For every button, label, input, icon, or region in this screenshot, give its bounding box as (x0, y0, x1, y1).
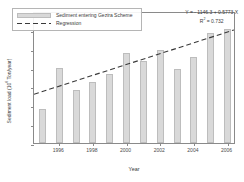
bar (106, 74, 113, 143)
chart-legend: Sediment entering Gezira Scheme Regressi… (12, 8, 142, 31)
regression-line (34, 13, 234, 143)
y-axis-tick-mark (31, 107, 34, 108)
bar (224, 29, 231, 143)
x-axis-tick-label: 1996 (44, 148, 72, 153)
y-axis-tick-mark (31, 70, 34, 71)
x-axis-label: Year (33, 166, 235, 172)
legend-item-regression: Regression (17, 20, 137, 27)
bar (123, 53, 130, 143)
legend-item-label: Regression (56, 21, 81, 26)
y-axis-tick-mark (31, 88, 34, 89)
plot-frame: 02468101214 (33, 12, 235, 144)
r-squared-text: R2 = 0.732 (185, 16, 238, 25)
legend-item-sediment: Sediment entering Gezira Scheme (17, 12, 137, 19)
bar (174, 69, 181, 143)
legend-bar-swatch-icon (17, 13, 51, 18)
r-squared-value: = 0.732 (205, 18, 223, 24)
bar (56, 68, 63, 143)
x-axis-tick-label: 2006 (213, 148, 241, 153)
bar (207, 33, 214, 143)
y-axis-tick-mark (31, 126, 34, 127)
x-axis-tick-mark (59, 143, 60, 146)
bar (190, 57, 197, 143)
x-axis-tick-mark (127, 143, 128, 146)
legend-item-label: Sediment entering Gezira Scheme (56, 13, 132, 18)
x-axis-tick-mark (93, 143, 94, 146)
x-axis-tick-label: 2002 (145, 148, 173, 153)
regression-equation-annotation: Y = - 1146.3 + 0.5773 X R2 = 0.732 (185, 9, 238, 25)
y-axis-label: Sediment load (106 Ton/year) (4, 36, 12, 146)
x-axis-tick-label: 1998 (78, 148, 106, 153)
bar (157, 50, 164, 143)
y-axis-tick-mark (31, 51, 34, 52)
x-axis-tick-mark (160, 143, 161, 146)
bar (89, 82, 96, 143)
sediment-load-bar-chart: Sediment load (106 Ton/year) 02468101214… (0, 0, 244, 182)
bar (73, 90, 80, 143)
y-axis-label-prefix: Sediment load (10 (6, 83, 12, 124)
y-axis-label-suffix: Ton/year) (6, 59, 12, 81)
plot-area (34, 13, 234, 143)
y-axis-tick-mark (31, 145, 34, 146)
regression-equation-text: Y = - 1146.3 + 0.5773 X (185, 9, 238, 16)
x-axis-tick-label: 2004 (179, 148, 207, 153)
y-axis-label-exponent: 6 (5, 81, 9, 83)
x-axis-tick-mark (228, 143, 229, 146)
bar (39, 109, 46, 143)
bar (140, 61, 147, 143)
x-axis-tick-mark (194, 143, 195, 146)
x-axis-tick-label: 2000 (112, 148, 140, 153)
legend-dashed-line-swatch-icon (17, 23, 51, 24)
y-axis-tick-mark (31, 32, 34, 33)
